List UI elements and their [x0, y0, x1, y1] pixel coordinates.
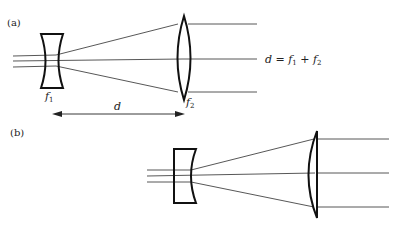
beam-expander-diagram: (a) f1 f2 d	[0, 0, 400, 230]
arrowhead-right-icon	[175, 111, 185, 117]
arrowhead-left-icon	[52, 111, 62, 117]
lens-f1-label: f1	[44, 90, 54, 104]
panel-b: (b)	[10, 127, 389, 218]
panel-b-label: (b)	[10, 127, 24, 138]
plano-convex-lens	[309, 131, 318, 218]
distance-label: d	[114, 100, 121, 113]
input-rays-a	[13, 55, 183, 67]
diverging-rays-a	[56, 24, 178, 92]
output-rays-b	[317, 139, 389, 207]
focal-sum-equation: d = f1 + f2	[265, 53, 322, 67]
plano-concave-lens	[174, 149, 196, 203]
output-rays-a	[183, 24, 257, 92]
panel-a-label: (a)	[7, 17, 21, 28]
input-rays-b	[147, 170, 315, 182]
lens-f2-label: f2	[185, 96, 195, 110]
panel-a: (a) f1 f2 d	[7, 16, 322, 117]
biconvex-lens-f2	[178, 16, 191, 100]
